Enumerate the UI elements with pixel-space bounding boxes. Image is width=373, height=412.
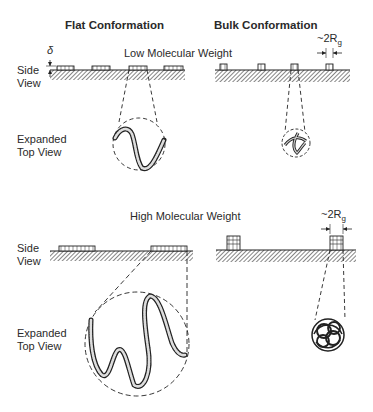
expanded-top-view-label-high: Expanded Top View [17,327,67,353]
flat-chain [57,66,74,70]
radius-of-gyration-label-low: ~2Rg [317,32,342,46]
high-mw-bulk-expanded-view [312,319,344,351]
high-mw-flat-expanded-view [85,292,189,396]
substrate [50,251,193,261]
bulk-chain [227,236,240,250]
header-flat-conformation: Flat Conformation [65,19,164,32]
low-mw-bulk-expanded-view [282,129,310,157]
bulk-chain [330,236,343,250]
high-mw-bulk-side-view [216,224,356,320]
radius-of-gyration-label-high: ~2Rg [321,208,346,222]
low-mw-bulk-side-view [215,48,350,132]
section-high-molecular-weight: High Molecular Weight [130,210,240,223]
flat-chain [92,66,110,70]
flat-chain [129,66,147,70]
low-mw-flat-side-view [46,60,185,122]
flat-chain [164,66,183,70]
bulk-chain [220,64,227,70]
low-mw-flat-expanded-view [113,118,165,170]
expanded-top-view-label-low: Expanded Top View [17,133,67,159]
substrate [216,250,356,262]
flat-chain [151,246,187,251]
bulk-chain [291,64,298,70]
section-low-molecular-weight: Low Molecular Weight [124,47,232,60]
bulk-chain [258,64,265,70]
delta-symbol: δ [47,44,53,57]
side-view-label-high: Side View [17,242,41,268]
header-bulk-conformation: Bulk Conformation [214,19,318,32]
bulk-chain [326,64,333,70]
side-view-label-low: Side View [17,64,41,90]
substrate [215,70,350,82]
substrate [50,70,185,80]
flat-chain [59,246,95,251]
